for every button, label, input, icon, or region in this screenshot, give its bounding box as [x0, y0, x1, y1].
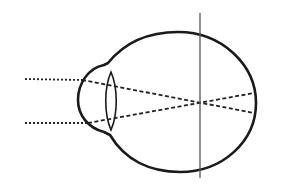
incoming-ray-top: [25, 79, 82, 80]
eyeball-outline: [78, 32, 256, 172]
eye-diagram: [0, 0, 282, 186]
lens: [106, 72, 117, 130]
